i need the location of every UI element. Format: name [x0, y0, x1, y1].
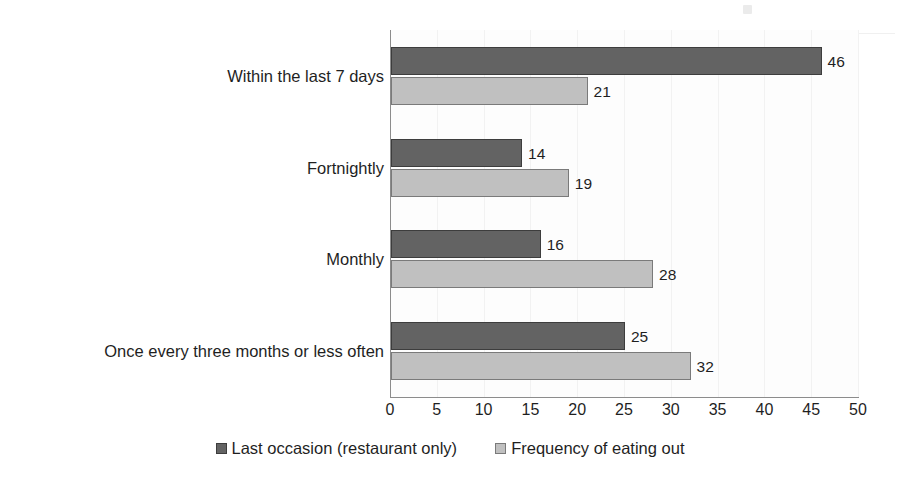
gridline [671, 30, 672, 397]
legend-item[interactable]: Frequency of eating out [495, 440, 684, 457]
bar [391, 169, 569, 197]
x-axis-tick-label: 20 [568, 402, 586, 418]
category-label: Once every three months or less often [104, 343, 384, 360]
category-label: Fortnightly [307, 160, 384, 177]
bar-chart: Within the last 7 days4621Fortnightly141… [0, 0, 900, 484]
x-axis-tick-label: 15 [521, 402, 539, 418]
bar-value-label: 16 [547, 237, 564, 253]
bar-value-label: 28 [659, 267, 676, 283]
bar [391, 77, 588, 105]
bar [391, 230, 541, 258]
bar [391, 139, 522, 167]
gridline [811, 30, 812, 397]
bar-value-label: 25 [631, 329, 648, 345]
x-axis-tick-label: 0 [386, 402, 395, 418]
x-axis-tick-label: 50 [849, 402, 867, 418]
bar [391, 260, 653, 288]
x-axis-tick-label: 40 [755, 402, 773, 418]
legend-label: Frequency of eating out [511, 440, 684, 457]
dark-gray-square-icon [216, 443, 227, 454]
legend-item[interactable]: Last occasion (restaurant only) [216, 440, 458, 457]
light-gray-square-icon [495, 443, 506, 454]
bar [391, 322, 625, 350]
bar-value-label: 21 [594, 84, 611, 100]
bar-value-label: 46 [828, 54, 845, 70]
bar [391, 352, 691, 380]
gridline [718, 30, 719, 397]
legend-label: Last occasion (restaurant only) [232, 440, 458, 457]
scan-artifact [743, 5, 752, 14]
gridline [764, 30, 765, 397]
category-label: Within the last 7 days [227, 68, 384, 85]
x-axis-tick-label: 25 [615, 402, 633, 418]
x-axis-tick-label: 35 [709, 402, 727, 418]
category-label: Monthly [326, 251, 384, 268]
x-axis-tick-label: 30 [662, 402, 680, 418]
bar-value-label: 14 [528, 146, 545, 162]
chart-legend: Last occasion (restaurant only)Frequency… [0, 440, 900, 457]
bar-value-label: 19 [575, 176, 592, 192]
x-axis-tick-label: 5 [432, 402, 441, 418]
bar [391, 47, 822, 75]
x-axis-tick-label: 10 [475, 402, 493, 418]
bar-value-label: 32 [697, 359, 714, 375]
x-axis-tick-label: 45 [802, 402, 820, 418]
x-axis-line [390, 397, 859, 398]
gridline [858, 30, 859, 397]
